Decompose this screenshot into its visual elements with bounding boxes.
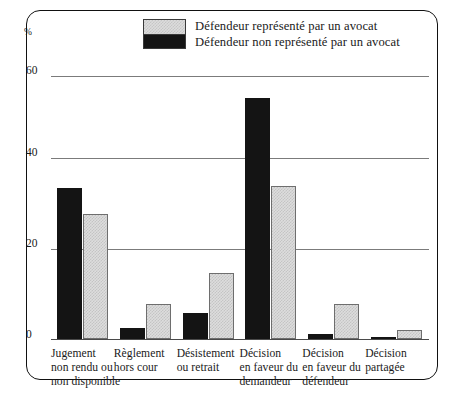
bar-group <box>365 21 428 339</box>
x-axis-label: Décisionpartagée <box>365 347 440 375</box>
bar-non-represente <box>245 98 270 339</box>
y-axis-unit-label: % <box>24 27 32 37</box>
chart-frame: Défendeur représenté par un avocat Défen… <box>26 10 438 380</box>
bar-non-represente <box>120 328 145 339</box>
y-tick-label-60: 60 <box>26 65 48 77</box>
bar-group <box>240 21 303 339</box>
bar-represente <box>397 330 422 339</box>
bar-represente <box>209 273 234 339</box>
bar-non-represente <box>371 337 396 339</box>
bar-group <box>51 21 114 339</box>
plot-area <box>51 21 429 339</box>
y-tick-label-0: 0 <box>26 329 48 341</box>
y-tick-label-40: 40 <box>26 147 48 159</box>
x-axis-label-line: non disponible <box>51 375 126 389</box>
bar-group <box>302 21 365 339</box>
bar-non-represente <box>183 313 208 339</box>
x-axis-labels: Jugementnon rendu ounon disponibleRèglem… <box>51 347 429 401</box>
bar-represente <box>146 304 171 339</box>
bar-represente <box>334 304 359 339</box>
y-tick-label-20: 20 <box>26 238 48 250</box>
bar-group <box>177 21 240 339</box>
bar-non-represente <box>57 188 82 339</box>
bar-non-represente <box>308 334 333 339</box>
bar-represente <box>271 186 296 339</box>
bar-represente <box>83 214 108 339</box>
x-axis-baseline <box>51 339 429 340</box>
x-axis-label-line: défendeur <box>302 375 377 389</box>
x-axis-label-line: Décision <box>365 347 440 361</box>
x-axis-label-line: partagée <box>365 361 440 375</box>
bar-group <box>114 21 177 339</box>
